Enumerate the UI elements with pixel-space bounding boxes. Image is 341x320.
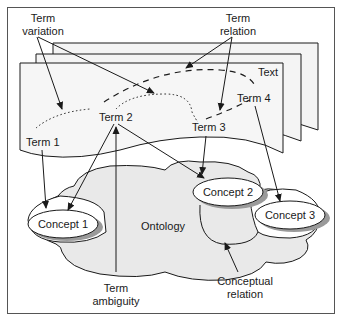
text-pages-label: Text bbox=[258, 66, 278, 78]
term-1-label: Term 1 bbox=[26, 136, 60, 148]
svg-text:Concept 2: Concept 2 bbox=[203, 186, 253, 198]
term-ambiguity-label-1: Term bbox=[104, 282, 128, 294]
diagram-root: Text Concept 1 Concept 2 Concept 3 Ontol… bbox=[0, 0, 341, 320]
term-2-label: Term 2 bbox=[99, 111, 133, 123]
term-ontology-diagram: Text Concept 1 Concept 2 Concept 3 Ontol… bbox=[0, 0, 341, 320]
term-relation-label-1: Term bbox=[226, 12, 250, 24]
term-ambiguity-label-2: ambiguity bbox=[92, 295, 140, 307]
conceptual-relation-label-1: Conceptual bbox=[217, 275, 273, 287]
term-4-label: Term 4 bbox=[237, 92, 271, 104]
svg-text:Concept 1: Concept 1 bbox=[38, 218, 88, 230]
term-3-label: Term 3 bbox=[192, 121, 226, 133]
term-variation-label-1: Term bbox=[31, 12, 55, 24]
conceptual-relation-label-2: relation bbox=[227, 288, 263, 300]
svg-text:Concept 3: Concept 3 bbox=[265, 209, 315, 221]
ontology-label: Ontology bbox=[141, 220, 186, 232]
term-variation-label-2: variation bbox=[22, 25, 64, 37]
term-relation-label-2: relation bbox=[220, 25, 256, 37]
